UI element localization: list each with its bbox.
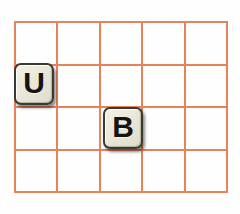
grid-cell-r4c4[interactable] — [143, 151, 185, 194]
grid-cell-r3c1[interactable] — [16, 108, 58, 151]
grid-cell-r3c4[interactable] — [143, 108, 185, 151]
letter-tile-u-label: U — [23, 68, 45, 98]
grid-cell-r4c2[interactable] — [58, 151, 100, 194]
grid-cell-r2c5[interactable] — [186, 66, 228, 109]
grid-cell-r1c3[interactable] — [101, 23, 143, 66]
grid-cell-r2c2[interactable] — [58, 66, 100, 109]
letter-tile-b-label: B — [112, 112, 134, 142]
letter-tile-b[interactable]: B — [103, 107, 143, 149]
grid-cell-r1c2[interactable] — [58, 23, 100, 66]
grid-cell-r3c2[interactable] — [58, 108, 100, 151]
grid-cell-r1c5[interactable] — [186, 23, 228, 66]
grid-cell-r4c1[interactable] — [16, 151, 58, 194]
grid-cell-r2c3[interactable] — [101, 66, 143, 109]
grid-cell-r4c5[interactable] — [186, 151, 228, 194]
game-board-area: U B — [0, 0, 240, 214]
grid-cell-r3c5[interactable] — [186, 108, 228, 151]
letter-tile-u[interactable]: U — [14, 63, 54, 105]
grid-cell-r2c4[interactable] — [143, 66, 185, 109]
grid-cell-r1c1[interactable] — [16, 23, 58, 66]
grid-cell-r1c4[interactable] — [143, 23, 185, 66]
grid-cell-r4c3[interactable] — [101, 151, 143, 194]
